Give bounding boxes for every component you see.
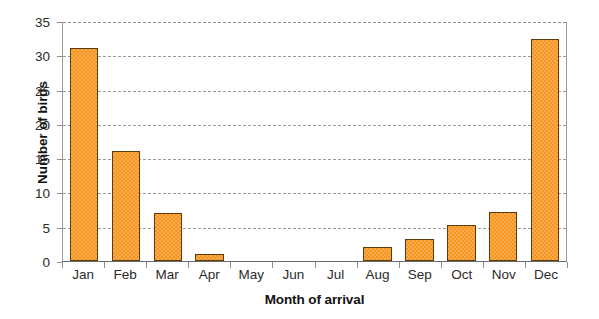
- x-tick-mark-12: [567, 262, 568, 268]
- bar-slot-jul: [315, 22, 357, 261]
- bar-mar[interactable]: [154, 213, 183, 261]
- bar-slot-dec: [524, 22, 566, 261]
- bar-feb[interactable]: [112, 151, 141, 261]
- bar-jan[interactable]: [70, 48, 99, 261]
- bar-slot-nov: [482, 22, 524, 261]
- bar-slot-aug: [356, 22, 398, 261]
- bar-series: [63, 22, 566, 261]
- x-tick-label-may: May: [230, 267, 272, 282]
- bar-aug[interactable]: [363, 247, 392, 261]
- x-tick-label-jan: Jan: [62, 267, 104, 282]
- x-tick-label-jun: Jun: [272, 267, 314, 282]
- x-tick-label-sep: Sep: [399, 267, 441, 282]
- bar-dec[interactable]: [531, 39, 560, 261]
- bar-slot-oct: [440, 22, 482, 261]
- y-tick-label-30: 30: [14, 49, 50, 64]
- y-tick-label-25: 25: [14, 83, 50, 98]
- x-tick-label-aug: Aug: [357, 267, 399, 282]
- bar-chart-figure: Number of birds 05101520253035 JanFebMar…: [0, 0, 599, 319]
- y-tick-label-20: 20: [14, 117, 50, 132]
- y-tick-label-15: 15: [14, 152, 50, 167]
- bar-sep[interactable]: [405, 239, 434, 261]
- x-tick-label-oct: Oct: [441, 267, 483, 282]
- bar-slot-jan: [63, 22, 105, 261]
- bar-slot-jun: [273, 22, 315, 261]
- bar-slot-apr: [189, 22, 231, 261]
- bar-slot-sep: [398, 22, 440, 261]
- y-tick-label-5: 5: [14, 220, 50, 235]
- bar-nov[interactable]: [489, 212, 518, 261]
- y-tick-label-0: 0: [14, 255, 50, 270]
- plot-area: [62, 22, 567, 262]
- bar-apr[interactable]: [195, 254, 224, 261]
- bar-slot-mar: [147, 22, 189, 261]
- x-tick-label-apr: Apr: [188, 267, 230, 282]
- x-tick-label-jul: Jul: [314, 267, 356, 282]
- bar-slot-feb: [105, 22, 147, 261]
- x-axis-tick-labels: JanFebMarAprMayJunJulAugSepOctNovDec: [62, 267, 567, 282]
- x-tick-label-nov: Nov: [483, 267, 525, 282]
- x-tick-label-dec: Dec: [525, 267, 567, 282]
- bar-slot-may: [231, 22, 273, 261]
- y-tick-label-35: 35: [14, 15, 50, 30]
- bar-oct[interactable]: [447, 225, 476, 261]
- y-tick-label-10: 10: [14, 186, 50, 201]
- x-axis-title: Month of arrival: [62, 292, 567, 307]
- x-tick-label-feb: Feb: [104, 267, 146, 282]
- x-tick-label-mar: Mar: [146, 267, 188, 282]
